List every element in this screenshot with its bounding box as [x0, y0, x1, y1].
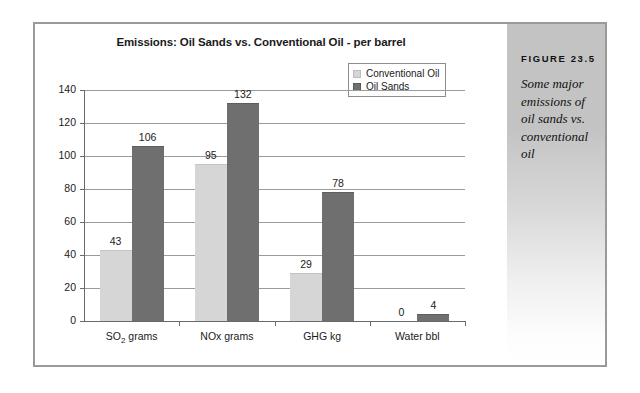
y-axis-tick-label: 140: [36, 83, 76, 95]
bar: [227, 103, 259, 321]
figure-root: Emissions: Oil Sands vs. Conventional Oi…: [0, 0, 640, 393]
bar-value-label: 4: [411, 299, 455, 311]
bar: [195, 164, 227, 321]
y-axis-labels: 020406080100120140: [35, 90, 76, 322]
x-axis-tick: [370, 321, 371, 326]
bar-value-label: 106: [126, 131, 170, 143]
legend-swatch-icon: [353, 70, 361, 78]
x-axis-tick: [465, 321, 466, 326]
y-axis-tick: [80, 156, 85, 157]
y-axis-tick: [80, 255, 85, 256]
y-axis-tick-label: 0: [36, 314, 76, 326]
chart-title: Emissions: Oil Sands vs. Conventional Oi…: [35, 36, 487, 48]
x-axis-category-label: SO2 grams: [84, 330, 179, 345]
figure-frame: Emissions: Oil Sands vs. Conventional Oi…: [33, 22, 607, 367]
y-axis-tick: [80, 321, 85, 322]
chart-panel: Emissions: Oil Sands vs. Conventional Oi…: [35, 24, 487, 365]
x-axis-category-label: GHG kg: [275, 330, 370, 342]
caption-sidebar: FIGURE 23.5 Some major emissions of oil …: [507, 24, 605, 365]
y-axis-tick: [80, 189, 85, 190]
y-axis-tick-label: 120: [36, 116, 76, 128]
legend-label: Conventional Oil: [366, 68, 439, 79]
plot-area: 4310695132297804: [84, 90, 465, 321]
bar: [290, 273, 322, 321]
bar: [100, 250, 132, 321]
y-axis-tick: [80, 288, 85, 289]
y-axis-tick: [80, 222, 85, 223]
bar: [322, 192, 354, 321]
x-axis-tick: [179, 321, 180, 326]
bar: [132, 146, 164, 321]
y-axis-tick-label: 40: [36, 248, 76, 260]
legend-item-1[interactable]: Conventional Oil: [353, 67, 439, 80]
x-axis-category-label: NOx grams: [179, 330, 274, 342]
x-axis-tick: [275, 321, 276, 326]
x-axis-category-label: Water bbl: [370, 330, 465, 342]
y-axis-tick-label: 80: [36, 182, 76, 194]
y-axis-tick-label: 20: [36, 281, 76, 293]
y-axis-tick-label: 60: [36, 215, 76, 227]
figure-number-label: FIGURE 23.5: [521, 53, 596, 64]
bar-value-label: 78: [316, 177, 360, 189]
y-axis-tick-label: 100: [36, 149, 76, 161]
y-axis-tick: [80, 123, 85, 124]
gridline: [84, 90, 465, 91]
gridline: [84, 123, 465, 124]
bar-value-label: 132: [221, 88, 265, 100]
y-axis-tick: [80, 90, 85, 91]
figure-caption-text: Some major emissions of oil sands vs. co…: [521, 75, 601, 163]
bar: [417, 314, 449, 321]
